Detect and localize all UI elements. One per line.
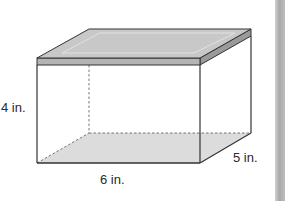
base-face — [37, 133, 251, 163]
prism-diagram — [0, 0, 285, 201]
page-edge-bar — [275, 0, 285, 201]
lid-front-band — [37, 58, 200, 65]
height-label: 4 in. — [1, 101, 26, 114]
length-label: 6 in. — [100, 173, 125, 186]
width-label: 5 in. — [233, 151, 258, 164]
